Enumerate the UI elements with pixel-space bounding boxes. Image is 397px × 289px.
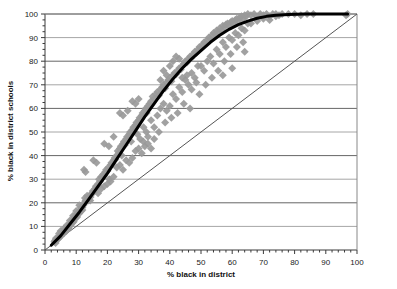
x-tick-label: 20 xyxy=(103,258,112,267)
x-tick-label: 0 xyxy=(43,258,48,267)
y-tick-label: 80 xyxy=(29,57,38,66)
y-tick-label: 10 xyxy=(29,222,38,231)
x-tick-label: 100 xyxy=(350,258,364,267)
x-tick-label: 40 xyxy=(165,258,174,267)
x-tick-label: 70 xyxy=(259,258,268,267)
y-axis-title: % black in district schools xyxy=(6,80,15,181)
x-tick-label: 10 xyxy=(72,258,81,267)
y-tick-label: 30 xyxy=(29,175,38,184)
y-tick-label: 40 xyxy=(29,152,38,161)
y-tick-label: 0 xyxy=(34,246,39,255)
y-tick-label: 70 xyxy=(29,81,38,90)
x-tick-label: 60 xyxy=(228,258,237,267)
x-tick-label: 80 xyxy=(290,258,299,267)
chart-canvas: 0102030405060708090100010203040506070809… xyxy=(0,0,397,289)
x-axis-title: % black in district xyxy=(167,270,235,279)
y-tick-label: 60 xyxy=(29,104,38,113)
x-tick-label: 30 xyxy=(134,258,143,267)
x-tick-label: 90 xyxy=(321,258,330,267)
y-tick-label: 50 xyxy=(29,128,38,137)
y-tick-label: 100 xyxy=(25,10,39,19)
x-tick-label: 50 xyxy=(197,258,206,267)
y-tick-label: 90 xyxy=(29,34,38,43)
scatter-chart: 0102030405060708090100010203040506070809… xyxy=(0,0,397,289)
chart-background xyxy=(0,0,397,289)
y-tick-label: 20 xyxy=(29,199,38,208)
